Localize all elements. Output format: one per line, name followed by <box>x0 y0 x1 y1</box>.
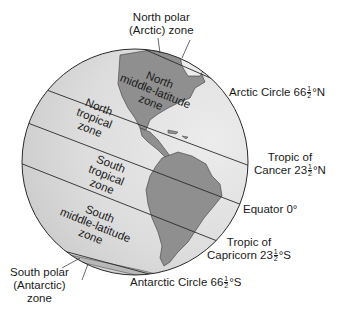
tropic-of-capricorn-label: Tropic of Capricorn 2312°S <box>207 236 291 262</box>
label-text: Arctic Circle <box>229 86 290 98</box>
north-polar-zone-label: North polar (Arctic) zone <box>129 11 194 37</box>
denominator: 2 <box>274 255 278 262</box>
label-line: zone <box>10 292 69 305</box>
arctic-circle-label: Arctic Circle 6612°N <box>229 86 325 99</box>
degree-value: 23 <box>294 164 307 176</box>
south-polar-leader-2 <box>82 264 88 280</box>
label-line: Cancer 2312°N <box>254 164 326 177</box>
unit: °N <box>312 86 325 98</box>
south-polar-zone-label: South polar (Antarctic) zone <box>10 266 69 305</box>
label-text: Equator 0° <box>243 203 297 215</box>
fraction: 12 <box>307 86 311 99</box>
unit: °N <box>313 164 326 176</box>
unit: °S <box>229 276 241 288</box>
label-line: North polar <box>129 11 194 24</box>
degree-value: 66 <box>211 276 224 288</box>
north-polar-leader-2 <box>182 40 190 58</box>
north-polar-leader <box>158 38 160 53</box>
antarctic-circle-label: Antarctic Circle 6612°S <box>130 276 242 289</box>
label-line: (Arctic) zone <box>129 24 194 37</box>
label-text: Antarctic Circle <box>130 276 207 288</box>
label-line: South polar <box>10 266 69 279</box>
degree-value: 66 <box>294 86 307 98</box>
fraction: 12 <box>224 276 228 289</box>
label-text: Cancer <box>254 164 291 176</box>
fraction: 12 <box>308 164 312 177</box>
label-line: Capricorn 2312°S <box>207 249 291 262</box>
denominator: 2 <box>307 92 311 99</box>
label-line: Tropic of <box>207 236 291 249</box>
fraction: 12 <box>274 249 278 262</box>
equator-label: Equator 0° <box>243 203 297 216</box>
tropic-of-cancer-label: Tropic of Cancer 2312°N <box>254 151 326 177</box>
label-text: Capricorn <box>207 249 257 261</box>
denominator: 2 <box>224 282 228 289</box>
unit: °S <box>279 249 291 261</box>
denominator: 2 <box>308 170 312 177</box>
label-line: (Antarctic) <box>10 279 69 292</box>
degree-value: 23 <box>260 249 273 261</box>
label-line: Tropic of <box>254 151 326 164</box>
